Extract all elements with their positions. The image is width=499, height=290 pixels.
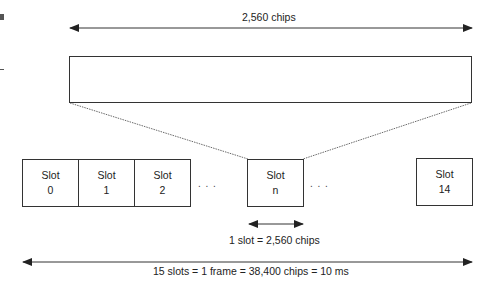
zoom-line-left [70, 103, 248, 159]
slot-index: 14 [439, 182, 451, 197]
slot-title: Slot [41, 168, 59, 183]
slot-title: Slot [97, 168, 115, 183]
slot-title: Slot [435, 167, 453, 182]
expanded-slot-box [70, 57, 472, 103]
ellipsis-1: . . . [198, 178, 217, 189]
slot-index: 0 [48, 183, 54, 198]
slot-0: Slot 0 [22, 159, 79, 207]
slot-14: Slot 14 [416, 158, 473, 206]
slot-index: 1 [104, 183, 110, 198]
zoom-line-right [303, 103, 471, 159]
slot-2: Slot 2 [134, 159, 191, 207]
diagram-lines [0, 0, 499, 290]
ellipsis-2: . . . [310, 178, 329, 189]
page-edge-mark [0, 14, 4, 20]
slot-n: Slot n [247, 159, 304, 207]
slot-title: Slot [153, 168, 171, 183]
slot-title: Slot [266, 168, 284, 183]
slot-span-label: 1 slot = 2,560 chips [229, 234, 320, 246]
slot-index: 2 [160, 183, 166, 198]
slot-index: n [273, 183, 279, 198]
frame-span-label: 15 slots = 1 frame = 38,400 chips = 10 m… [153, 265, 349, 277]
page-edge-rule [0, 69, 4, 70]
slot-1: Slot 1 [78, 159, 135, 207]
top-span-label: 2,560 chips [242, 11, 296, 23]
